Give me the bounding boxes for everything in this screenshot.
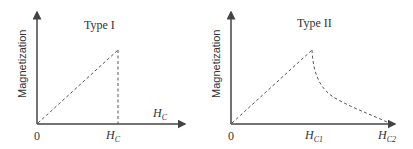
origin-label: 0 [34, 129, 40, 144]
x-tick-hc1: HC1 [305, 128, 323, 144]
magnetization-curve-rise [232, 50, 312, 123]
x-tick-hc: HC [106, 128, 120, 144]
diagram-canvas [0, 0, 413, 149]
y-axis-label: Magnetization [16, 30, 28, 99]
panel-title: Type II [297, 16, 332, 31]
magnetization-curve [38, 50, 118, 123]
magnetization-curve-decay [312, 50, 389, 123]
origin-label: 0 [228, 129, 234, 144]
panel-title: Type I [84, 18, 115, 33]
x-axis-label-hc: HC [153, 106, 167, 122]
y-axis-label: Magnetization [210, 30, 222, 99]
x-tick-hc2: HC2 [378, 128, 396, 144]
